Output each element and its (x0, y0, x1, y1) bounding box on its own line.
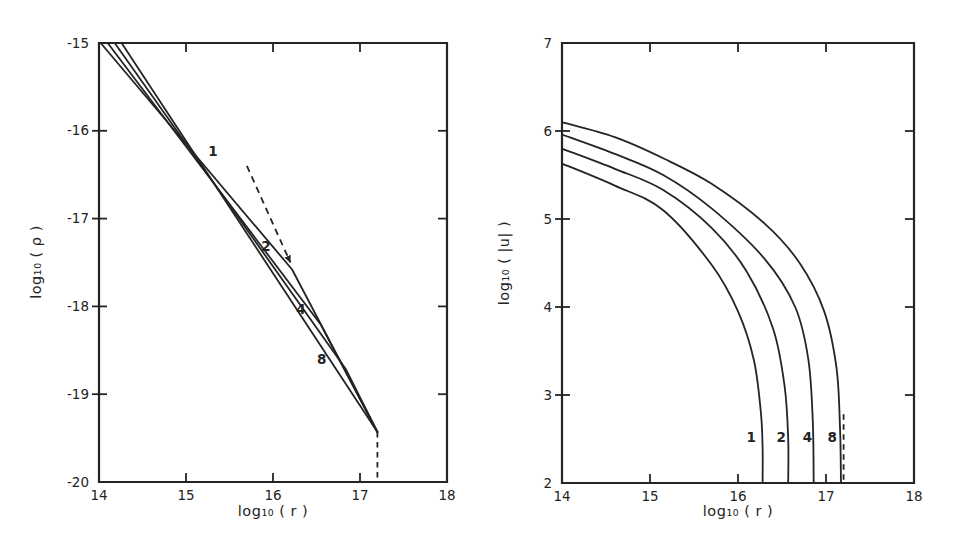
scientific-figure: 1415161718-15-16-17-18-19-201248 log₁₀ (… (0, 0, 961, 534)
curve-label-2: 2 (776, 429, 785, 445)
density-y-axis-label: log₁₀ ( ρ ) (28, 225, 44, 299)
curve-8 (562, 122, 841, 483)
x-tick-label: 18 (905, 488, 922, 504)
y-tick-label: 6 (543, 123, 552, 139)
velocity-plot-panel: 14151617187654321248 log₁₀ ( r ) log₁₀ (… (480, 0, 961, 534)
density-x-axis-label: log₁₀ ( r ) (238, 503, 308, 519)
curve-label-8: 8 (827, 429, 836, 445)
x-tick-label: 17 (817, 488, 834, 504)
y-tick-label: -15 (67, 35, 89, 51)
density-plot-panel: 1415161718-15-16-17-18-19-201248 log₁₀ (… (0, 0, 480, 534)
y-tick-label: 7 (543, 35, 552, 51)
y-tick-label: 4 (543, 299, 552, 315)
x-tick-label: 16 (264, 487, 281, 503)
y-tick-label: -16 (67, 122, 89, 138)
x-tick-label: 14 (553, 488, 570, 504)
curve-label-1: 1 (746, 429, 755, 445)
y-tick-label: -18 (67, 298, 89, 314)
curve-1 (562, 164, 763, 483)
curve-8 (122, 43, 378, 432)
x-tick-label: 15 (641, 488, 658, 504)
curve-label-8: 8 (317, 351, 326, 367)
x-tick-label: 14 (90, 487, 107, 503)
y-tick-label: 2 (543, 475, 552, 491)
curve-1 (101, 43, 378, 432)
y-tick-label: -17 (67, 210, 89, 226)
y-tick-label: -20 (67, 474, 89, 490)
x-tick-label: 18 (438, 487, 455, 503)
plot-frame (562, 43, 914, 483)
curve-label-1: 1 (208, 143, 217, 159)
x-tick-label: 16 (729, 488, 746, 504)
y-tick-label: -19 (67, 386, 89, 402)
y-tick-label: 5 (543, 211, 552, 227)
x-tick-label: 15 (177, 487, 194, 503)
x-tick-label: 17 (351, 487, 368, 503)
velocity-chart: 14151617187654321248 (543, 35, 922, 505)
density-chart: 1415161718-15-16-17-18-19-201248 (67, 35, 456, 504)
velocity-x-axis-label: log₁₀ ( r ) (703, 503, 773, 519)
velocity-y-axis-label: log₁₀ ( |u| ) (496, 221, 513, 305)
curve-2 (108, 43, 378, 432)
curve-label-4: 4 (803, 429, 812, 445)
y-tick-label: 3 (543, 387, 552, 403)
